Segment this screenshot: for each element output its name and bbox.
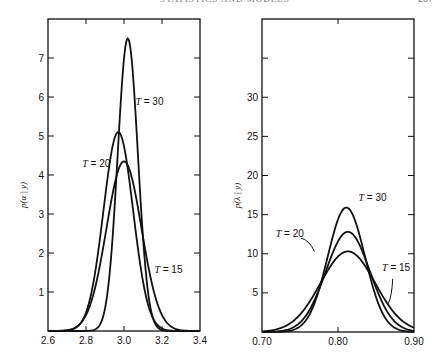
density-curve-t15	[48, 161, 200, 331]
x-tick-label: 0.70	[252, 336, 272, 347]
series-annotation: T = 20	[276, 228, 305, 239]
y-tick-label: 5	[38, 131, 44, 142]
y-tick-label: 2	[38, 248, 44, 259]
y-tick-label: 15	[247, 209, 259, 220]
y-tick-label: 20	[247, 170, 259, 181]
y-tick-label: 30	[247, 92, 259, 103]
arrow-t15	[388, 279, 393, 304]
density-curve-t30	[48, 39, 200, 332]
y-tick-label: 1	[38, 287, 44, 298]
y-tick-label: 10	[247, 248, 259, 259]
x-tick-label: 3.2	[155, 335, 169, 346]
plot-frame	[262, 19, 414, 332]
series-annotation: T = 15	[382, 262, 411, 273]
y-tick-label: 4	[38, 170, 44, 181]
series-annotation: T = 30	[359, 192, 388, 203]
y-tick-label: 6	[38, 92, 44, 103]
y-tick-label: 5	[252, 287, 258, 298]
arrow-t20	[301, 238, 315, 251]
series-annotation: T = 20	[82, 158, 111, 169]
y-axis-label: p(α | y)	[18, 182, 28, 209]
x-tick-label: 2.8	[79, 335, 93, 346]
density-curve-t20	[262, 232, 414, 332]
y-axis-label: p(λ | y)	[232, 183, 242, 209]
chart-figure: 2.62.83.03.23.41234567p(α | y)T = 30T = …	[0, 0, 433, 359]
y-tick-label: 3	[38, 209, 44, 220]
alpha-posterior-panel: 2.62.83.03.23.41234567p(α | y)T = 30T = …	[18, 19, 207, 346]
series-annotation: T = 30	[135, 96, 164, 107]
lambda-posterior-panel: 0.700.800.9051015202530p(λ | y)T = 30T =…	[232, 19, 424, 347]
x-tick-label: 3.4	[193, 335, 207, 346]
y-tick-label: 25	[247, 131, 259, 142]
x-tick-label: 3.0	[117, 335, 131, 346]
series-annotation: T = 15	[154, 264, 183, 275]
y-tick-label: 7	[38, 53, 44, 64]
x-tick-label: 0.80	[328, 336, 348, 347]
x-tick-label: 0.90	[404, 336, 424, 347]
x-tick-label: 2.6	[41, 335, 55, 346]
